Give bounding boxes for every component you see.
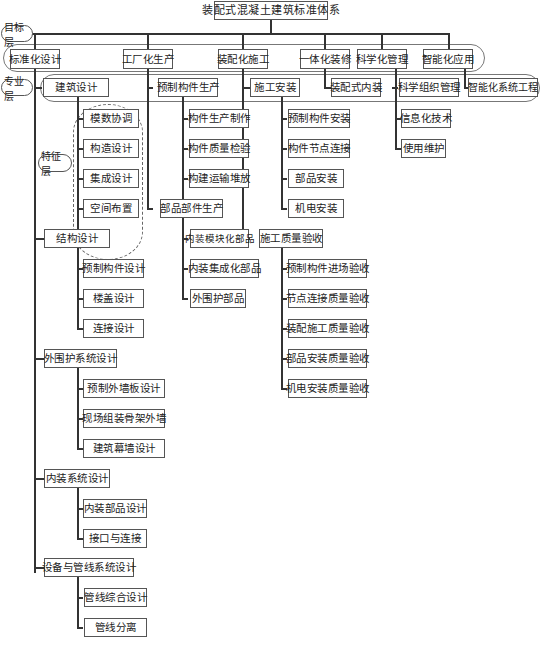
connector <box>281 208 287 210</box>
prefab-component-design: 预制构件设计 <box>83 259 144 278</box>
assembly-quality-acceptance: 装配施工质量验收 <box>288 319 367 338</box>
construction-quality-acceptance: 施工质量验收 <box>259 229 323 248</box>
discipline-layer-label: 专业层 <box>1 79 33 96</box>
connector <box>270 20 272 34</box>
goal-layer-label: 目标层 <box>1 25 33 42</box>
connector <box>34 66 36 573</box>
feature-layer-label: 特征层 <box>38 154 72 172</box>
parts-installation: 部品安装 <box>288 169 344 188</box>
connector <box>242 33 244 50</box>
connector <box>324 66 326 88</box>
connector <box>77 487 79 539</box>
component-manufacturing: 构件生产制作 <box>189 109 249 128</box>
connector <box>147 33 149 50</box>
connector <box>34 478 44 480</box>
assembled-interior: 装配式内装 <box>331 78 381 97</box>
mep-installation: 机电安装 <box>288 199 344 218</box>
connector <box>147 87 153 89</box>
construction-installation: 施工安装 <box>250 78 300 97</box>
parts-production: 部品部件生产 <box>160 199 223 218</box>
connector <box>381 33 383 50</box>
curtain-wall-design: 建筑幕墙设计 <box>83 439 165 458</box>
connector <box>464 66 466 88</box>
goal-scientific-management: 科学化管理 <box>357 49 407 69</box>
prefab-entry-acceptance: 预制构件进场验收 <box>288 259 367 278</box>
usage-maintenance: 使用维护 <box>401 139 446 158</box>
connector <box>281 96 283 208</box>
prefab-exterior-wall-design: 预制外墙板设计 <box>83 379 165 398</box>
connector <box>147 208 153 210</box>
connector <box>77 627 83 629</box>
connector <box>182 96 184 208</box>
equipment-pipeline-design: 设备与管线系统设计 <box>44 558 134 577</box>
scientific-org-management: 科学组织管理 <box>399 78 459 97</box>
connector <box>34 238 44 240</box>
interior-modular-parts: 内装模块化部品 <box>190 229 249 248</box>
information-technology: 信息化技术 <box>401 109 451 128</box>
intelligent-systems-engineering: 智能化系统工程 <box>468 78 538 97</box>
component-quality-inspection: 构件质量检验 <box>189 139 249 158</box>
goal-intelligent-application: 智能化应用 <box>423 49 473 69</box>
feature-modular-coordination: 模数协调 <box>83 109 139 128</box>
connector <box>324 33 326 50</box>
connector <box>34 87 42 89</box>
feature-space-layout: 空间布置 <box>83 199 139 218</box>
node-connection-acceptance: 节点连接质量验收 <box>288 289 367 308</box>
connector <box>448 33 450 50</box>
goal-assembly-construction: 装配化施工 <box>218 49 268 69</box>
architecture-design: 建筑设计 <box>43 78 109 97</box>
structural-design: 结构设计 <box>44 229 110 248</box>
connector <box>77 576 79 628</box>
feature-integrated-design: 集成设计 <box>83 169 139 188</box>
interior-parts-design: 内装部品设计 <box>83 499 147 518</box>
envelope-parts: 外围护部品 <box>190 289 246 308</box>
goal-factory-production: 工厂化生产 <box>123 49 173 69</box>
connector <box>77 367 79 449</box>
component-transport-stacking: 构建运输堆放 <box>189 169 249 188</box>
connection-design: 连接设计 <box>83 319 144 338</box>
goal-standardized-design: 标准化设计 <box>10 49 60 69</box>
interior-integrated-parts: 内装集成化部品 <box>190 259 259 278</box>
parts-installation-acceptance: 部品安装质量验收 <box>288 349 367 368</box>
connector <box>34 33 36 50</box>
connector <box>77 247 79 329</box>
connector <box>281 148 287 150</box>
standard-system-diagram: 装配式混凝土建筑标准体系 目标层 专业层 特征层 标准化设计 工厂化生产 装配化… <box>0 0 542 645</box>
connector <box>242 87 250 89</box>
pipeline-separation: 管线分离 <box>84 618 147 637</box>
connector <box>182 217 184 298</box>
component-node-connection: 构件节点连接 <box>288 139 350 158</box>
interior-system-design: 内装系统设计 <box>44 469 110 488</box>
prefab-component-production: 预制构件生产 <box>158 78 218 97</box>
floor-design: 楼盖设计 <box>83 289 144 308</box>
connector <box>281 118 287 120</box>
goal-integrated-decoration: 一体化装修 <box>300 49 350 69</box>
connector <box>395 66 397 148</box>
feature-construction-design: 构造设计 <box>83 139 139 158</box>
envelope-system-design: 外围护系统设计 <box>44 349 117 368</box>
connector <box>281 178 287 180</box>
root-node: 装配式混凝土建筑标准体系 <box>214 1 328 20</box>
connector <box>77 597 83 599</box>
site-assembled-frame-wall: 现场组装骨架外墙 <box>83 409 165 428</box>
prefab-component-installation: 预制构件安装 <box>288 109 350 128</box>
connector <box>34 358 44 360</box>
pipeline-integration-design: 管线综合设计 <box>84 588 147 607</box>
connector <box>182 298 188 300</box>
mep-installation-acceptance: 机电安装质量验收 <box>288 379 367 398</box>
interface-connection: 接口与连接 <box>83 529 147 548</box>
